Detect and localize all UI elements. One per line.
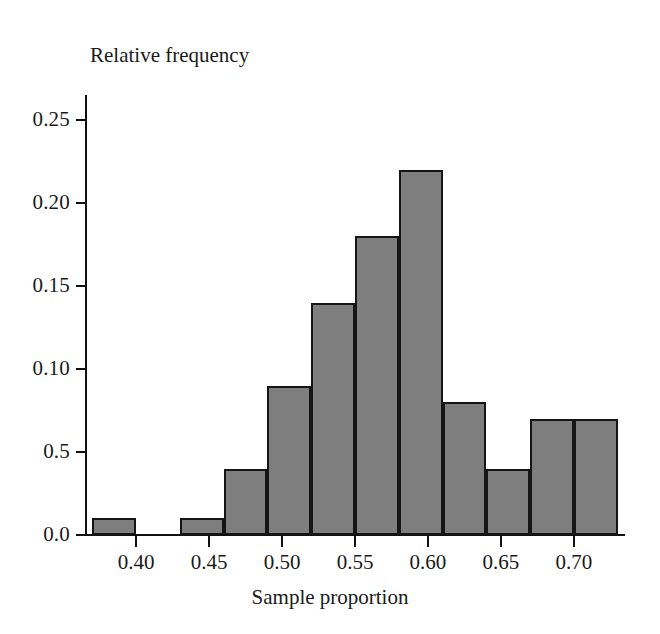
histogram-bar [399, 170, 443, 535]
histogram-bar [267, 386, 311, 535]
x-tick [208, 536, 210, 547]
histogram-bar [92, 518, 136, 535]
x-tick-label: 0.40 [101, 551, 171, 573]
x-tick [281, 536, 283, 547]
x-tick-label: 0.70 [539, 551, 609, 573]
y-axis-title: Relative frequency [90, 44, 249, 66]
histogram-bar [574, 419, 618, 535]
y-tick-label: 0.10 [8, 358, 70, 379]
y-tick-label: 0.15 [8, 275, 70, 296]
plot-area [85, 95, 625, 535]
histogram-bar [311, 303, 355, 535]
histogram-bar [180, 518, 224, 535]
x-tick-label: 0.45 [174, 551, 244, 573]
y-tick-label: 0.5 [8, 441, 70, 462]
histogram-bar [486, 469, 530, 535]
histogram-bar [224, 469, 268, 535]
histogram-chart: Relative frequency 0.00.50.100.150.200.2… [0, 0, 660, 634]
y-tick-label: 0.25 [8, 109, 70, 130]
y-tick-label: 0.0 [8, 524, 70, 545]
histogram-bar [355, 236, 399, 535]
x-tick [135, 536, 137, 547]
histogram-bar [530, 419, 574, 535]
x-tick [427, 536, 429, 547]
y-tick-label: 0.20 [8, 192, 70, 213]
x-tick [500, 536, 502, 547]
x-tick-label: 0.55 [320, 551, 390, 573]
x-tick-label: 0.60 [393, 551, 463, 573]
x-tick [573, 536, 575, 547]
histogram-bar [443, 402, 487, 535]
x-tick [354, 536, 356, 547]
x-tick-label: 0.65 [466, 551, 536, 573]
x-axis-title: Sample proportion [0, 586, 660, 608]
x-tick-label: 0.50 [247, 551, 317, 573]
